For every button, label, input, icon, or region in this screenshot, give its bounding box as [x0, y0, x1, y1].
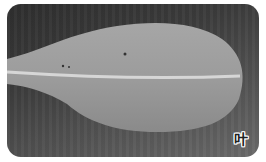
leaf-photo: 叶 — [7, 4, 259, 157]
leaf-shape — [7, 4, 259, 157]
leaf-label: 叶 — [234, 132, 248, 146]
